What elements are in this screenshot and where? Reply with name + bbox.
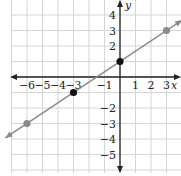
x-tick-label: −6	[19, 79, 35, 92]
x-tick-label: 1	[132, 79, 139, 92]
y-tick-label: −5	[100, 149, 116, 162]
x-tick-label: 3	[163, 79, 170, 92]
x-axis-label: x	[171, 79, 178, 92]
data-point	[116, 58, 123, 65]
data-point	[23, 120, 30, 127]
y-tick-label: −3	[100, 118, 116, 131]
y-tick-label: 4	[109, 9, 116, 22]
line-end-arrow-icon	[175, 20, 181, 26]
data-point	[70, 89, 77, 96]
x-tick-label: 2	[148, 79, 155, 92]
y-tick-label: −2	[100, 102, 116, 115]
y-axis-up-arrow-icon	[117, 0, 123, 7]
plot-area: −6−5−4−3−1123x432−2−3−4−5y	[0, 0, 181, 176]
y-tick-label: 3	[109, 25, 116, 38]
y-tick-label: −4	[100, 133, 116, 146]
x-tick-label: −5	[34, 79, 50, 92]
y-tick-label: 2	[109, 40, 116, 53]
coordinate-plane-chart: −6−5−4−3−1123x432−2−3−4−5y	[0, 0, 181, 176]
y-axis-label: y	[124, 0, 132, 12]
data-point	[163, 27, 170, 34]
x-tick-label: −4	[50, 79, 66, 92]
x-tick-label: −1	[96, 79, 112, 92]
